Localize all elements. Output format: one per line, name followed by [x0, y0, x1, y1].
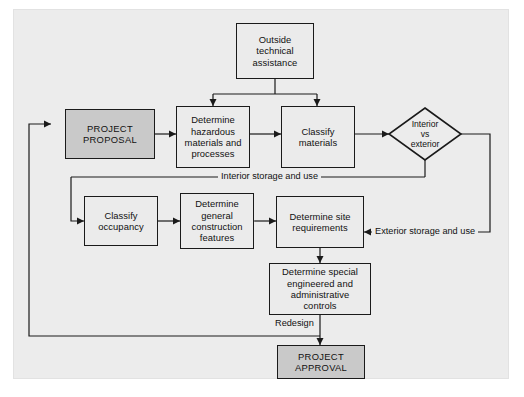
node-determine-special-controls[interactable]: Determine special engineered and adminis… — [269, 263, 371, 315]
node-label-line: materials and — [185, 137, 242, 148]
node-label-line: technical — [256, 45, 293, 56]
node-label-line: Interior — [412, 119, 439, 129]
node-label-line: vs — [421, 129, 430, 139]
node-label-line: PROJECT — [298, 351, 344, 362]
edge-interior-to-occupancy — [71, 177, 84, 221]
node-label-line: administrative — [291, 289, 350, 300]
node-classify-occupancy[interactable]: Classify occupancy — [84, 196, 158, 246]
node-label-line: Classify — [104, 210, 137, 221]
node-label-line: Determine site — [289, 211, 350, 222]
node-interior-vs-exterior[interactable]: Interior vs exterior — [389, 108, 461, 160]
node-label-line: hazardous — [191, 126, 235, 137]
node-label-line: exterior — [411, 139, 440, 149]
node-label-line: Classify — [301, 126, 334, 137]
node-label-line: APPROVAL — [295, 362, 347, 373]
node-label-line: occupancy — [98, 221, 143, 232]
node-classify-materials[interactable]: Classify materials — [281, 106, 355, 168]
node-label-line: PROJECT — [87, 123, 133, 134]
edge-label-interior-storage-and-use: Interior storage and use — [218, 171, 321, 182]
node-outside-technical-assistance[interactable]: Outside technical assistance — [236, 23, 314, 79]
node-label-line: engineered and — [287, 278, 353, 289]
node-determine-general-construction-features[interactable]: Determine general construction features — [180, 193, 254, 249]
node-label-line: features — [200, 232, 234, 243]
node-label-line: Determine — [195, 198, 239, 209]
node-label-line: controls — [303, 300, 336, 311]
node-determine-site-requirements[interactable]: Determine site requirements — [276, 196, 364, 248]
node-label-line: Outside — [259, 34, 292, 45]
node-label-line: assistance — [253, 57, 298, 68]
node-project-approval[interactable]: PROJECT APPROVAL — [277, 345, 365, 379]
flowchart-canvas: Outside technical assistance PROJECT PRO… — [0, 0, 524, 397]
node-label-line: requirements — [292, 222, 347, 233]
node-label-line: Determine special — [282, 266, 358, 277]
node-label-line: construction — [191, 221, 242, 232]
node-label-line: materials — [299, 137, 337, 148]
node-label-line: Determine — [191, 114, 235, 125]
node-label-line: PROPOSAL — [83, 134, 137, 145]
node-project-proposal[interactable]: PROJECT PROPOSAL — [65, 109, 155, 159]
edge-label-exterior-storage-and-use: Exterior storage and use — [372, 226, 478, 237]
node-determine-hazardous-materials[interactable]: Determine hazardous materials and proces… — [176, 106, 250, 168]
edge-label-redesign: Redesign — [272, 318, 317, 329]
node-label-line: general — [201, 210, 233, 221]
node-label-line: processes — [191, 148, 234, 159]
